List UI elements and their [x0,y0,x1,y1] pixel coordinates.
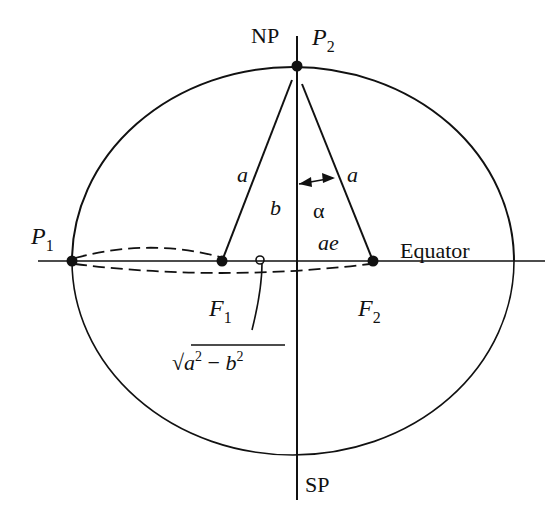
ellipse-diagram: NP SP P2 P1 F1 F2 Equator a a b α ae √a2… [0,0,555,521]
p1-label: P1 [30,223,54,254]
semi-major-left-label: a [237,162,248,187]
point-f1 [217,256,228,267]
ellipse-upper-half [72,67,514,261]
ellipse-lower-half [72,261,514,455]
point-f2 [368,256,379,267]
angle-label: α [313,198,325,223]
semi-major-right-label: a [347,162,358,187]
p2-label: P2 [311,24,335,55]
f1-label: F1 [208,295,232,326]
north-pole-label: NP [251,23,279,48]
point-p2 [292,61,303,72]
angle-arrowhead-left [299,177,312,187]
angle-arrowhead-right [322,173,335,183]
point-p1 [67,256,78,267]
semi-minor-label: b [270,195,281,220]
midpoint-marker [256,256,264,264]
f2-label: F2 [357,295,381,326]
side-a-left [222,80,292,261]
sqrt-expression: √a2 − b2 [172,349,244,375]
equator-label: Equator [400,238,470,263]
focal-distance-label: ae [318,230,339,255]
dashed-arc-upper [75,248,220,258]
south-pole-label: SP [305,472,329,497]
